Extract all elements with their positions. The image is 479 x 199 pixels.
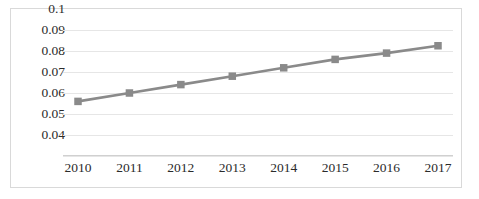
chart-frame: 0.10.090.080.070.060.050.04 201020112012… xyxy=(10,8,462,188)
data-point-marker xyxy=(280,64,288,72)
x-axis-tick-label: 2016 xyxy=(373,161,400,175)
data-point-marker xyxy=(126,89,133,97)
data-point-marker xyxy=(229,72,237,80)
x-axis-tick-label: 2015 xyxy=(322,161,349,175)
y-axis-tick-label: 0.09 xyxy=(41,23,65,37)
y-axis-tick-label: 0.07 xyxy=(41,65,65,79)
data-point-marker xyxy=(74,98,82,106)
x-axis-tick-label: 2017 xyxy=(425,161,452,175)
x-axis-tick-label: 2012 xyxy=(167,161,194,175)
x-axis-tick-labels: 20102011201220132014201520162017 xyxy=(63,161,453,185)
data-point-marker xyxy=(434,42,442,50)
y-axis-tick-label: 0.05 xyxy=(41,107,65,121)
x-axis-tick-label: 2013 xyxy=(219,161,246,175)
y-axis-tick-label: 0.1 xyxy=(48,2,65,16)
data-point-marker xyxy=(177,81,185,89)
data-point-marker xyxy=(383,49,391,57)
x-axis-tick-label: 2011 xyxy=(116,161,143,175)
x-axis-tick-label: 2014 xyxy=(270,161,297,175)
series-markers xyxy=(74,42,442,105)
x-axis-tick-label: 2010 xyxy=(65,161,92,175)
y-axis-tick-labels: 0.10.090.080.070.060.050.04 xyxy=(23,9,65,187)
y-axis-tick-label: 0.04 xyxy=(41,128,65,142)
y-axis-tick-label: 0.08 xyxy=(41,44,65,58)
gridline xyxy=(63,156,453,157)
data-point-marker xyxy=(331,56,339,64)
y-axis-tick-label: 0.06 xyxy=(41,86,65,100)
plot-area xyxy=(63,30,453,156)
line-series xyxy=(63,30,453,156)
